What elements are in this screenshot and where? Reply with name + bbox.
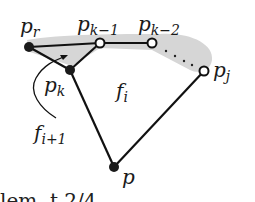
point-pj	[200, 67, 209, 76]
cutoff-caption: lem..t 2/4	[0, 189, 97, 202]
point-p	[109, 162, 119, 172]
label-pk2: pk−2	[138, 12, 180, 38]
shaded-region	[27, 34, 212, 72]
point-pk1	[96, 39, 105, 48]
point-pk	[65, 65, 75, 75]
edge-pj-p	[114, 71, 204, 167]
label-pk1: pk−1	[77, 12, 119, 38]
label-pk: pk	[44, 73, 65, 99]
label-fi1: fi+1	[32, 121, 67, 147]
diagram-canvas: pr pk−1 pk−2 pj pk p fi fi+1 lem..t 2/4	[0, 0, 255, 202]
label-pj: pj	[213, 58, 231, 84]
point-pk2	[148, 39, 157, 48]
label-fi: fi	[114, 79, 128, 105]
edge-pk-p	[70, 70, 114, 167]
label-p: p	[122, 165, 135, 189]
point-pr	[24, 42, 34, 52]
label-pr: pr	[20, 14, 41, 40]
